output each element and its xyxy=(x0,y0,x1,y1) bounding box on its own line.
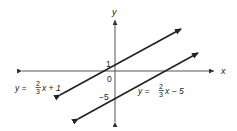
eq-upper-den: 3 xyxy=(36,88,40,95)
equation-lower: y = 2 3 x − 5 xyxy=(137,83,184,98)
diagram-canvas: y x 1 0 −5 y = 2 3 x + 1 y = 2 3 x − 5 xyxy=(0,0,237,131)
eq-lower-den: 3 xyxy=(159,91,163,98)
eq-upper-num: 2 xyxy=(36,80,40,87)
y-axis-label: y xyxy=(111,7,117,17)
origin-label: 0 xyxy=(107,74,112,84)
eq-lower-lhs: y = xyxy=(137,86,150,96)
tick-label-minus5: −5 xyxy=(99,92,109,102)
eq-upper-rhs: x + 1 xyxy=(41,83,61,93)
tick-label-1: 1 xyxy=(106,59,111,69)
x-axis-label: x xyxy=(220,66,226,76)
coordinate-diagram: y x 1 0 −5 y = 2 3 x + 1 y = 2 3 x − 5 xyxy=(0,0,237,131)
eq-upper-lhs: y = xyxy=(14,83,27,93)
eq-lower-num: 2 xyxy=(159,83,163,90)
equation-upper: y = 2 3 x + 1 xyxy=(14,80,61,95)
eq-lower-rhs: x − 5 xyxy=(164,86,184,96)
